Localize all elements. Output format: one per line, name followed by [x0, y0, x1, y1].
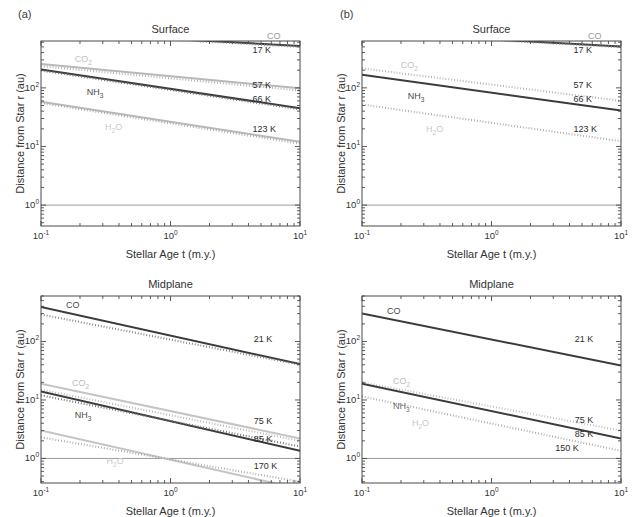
x-tick-label: 10-1: [28, 230, 54, 241]
chart-title-b-midplane: Midplane: [362, 278, 621, 290]
molecule-label-CO: CO: [588, 31, 602, 41]
temperature-label: 21 K: [575, 334, 594, 344]
y-tick-label: 100: [336, 199, 360, 210]
molecule-label-NH3: NH3: [87, 87, 104, 97]
y-tick-label: 102: [15, 335, 39, 346]
temperature-label: 17 K: [253, 45, 272, 55]
y-tick-label: 102: [336, 335, 360, 346]
x-axis-label-b-surface: Stellar Age t (m.y.): [362, 248, 621, 260]
chart-title-a-midplane: Midplane: [41, 278, 300, 290]
axes-frame: [41, 296, 300, 483]
temperature-label: 75 K: [254, 416, 273, 426]
molecule-label-CO2: CO2: [72, 378, 89, 388]
x-axis-label-a-surface: Stellar Age t (m.y.): [41, 248, 300, 260]
x-tick-label: 101: [287, 230, 313, 241]
temperature-label: 170 K: [254, 461, 278, 471]
x-tick-label: 10-1: [28, 487, 54, 498]
temperature-label: 21 K: [254, 334, 273, 344]
molecule-label-H2O: H2O: [105, 122, 122, 132]
molecule-label-NH3: NH3: [75, 410, 92, 420]
y-tick-label: 100: [15, 199, 39, 210]
temperature-label: 123 K: [574, 124, 598, 134]
x-tick-label: 100: [158, 487, 184, 498]
molecule-label-H2O: H2O: [426, 124, 443, 134]
x-tick-label: 100: [479, 230, 505, 241]
y-tick-label: 101: [336, 394, 360, 405]
series-line: [41, 437, 300, 481]
y-tick-label: 101: [15, 394, 39, 405]
molecule-label-H2O: H2O: [107, 456, 124, 466]
molecule-label-CO2: CO2: [393, 376, 410, 386]
y-tick-label: 100: [336, 452, 360, 463]
panel-tag-a: (a): [18, 8, 31, 20]
molecule-label-NH3: NH3: [393, 401, 410, 411]
y-tick-label: 100: [15, 452, 39, 463]
molecule-label-CO: CO: [387, 306, 401, 316]
molecule-label-H2O: H2O: [412, 418, 429, 428]
temperature-label: 57 K: [253, 80, 272, 90]
molecule-label-CO2: CO2: [75, 54, 92, 64]
x-tick-label: 100: [479, 487, 505, 498]
molecule-label-CO: CO: [66, 300, 80, 310]
x-tick-label: 101: [608, 487, 633, 498]
temperature-label: 66 K: [574, 94, 593, 104]
x-tick-label: 100: [158, 230, 184, 241]
x-tick-label: 101: [287, 487, 313, 498]
panel-tag-b: (b): [340, 8, 353, 20]
series-line: [41, 102, 300, 142]
molecule-label-CO2: CO2: [401, 60, 418, 70]
y-tick-label: 101: [336, 140, 360, 151]
temperature-label: 85 K: [254, 434, 273, 444]
x-tick-label: 10-1: [349, 230, 375, 241]
temperature-label: 17 K: [574, 45, 593, 55]
temperature-label: 150 K: [555, 443, 579, 453]
temperature-label: 75 K: [575, 415, 594, 425]
plot-curves: [362, 32, 621, 205]
x-tick-label: 101: [608, 230, 633, 241]
molecule-label-CO: CO: [267, 31, 281, 41]
chart-title-b-surface: Surface: [362, 23, 621, 35]
temperature-label: 66 K: [253, 94, 272, 104]
temperature-label: 123 K: [253, 124, 277, 134]
x-axis-label-a-midplane: Stellar Age t (m.y.): [41, 505, 300, 517]
temperature-label: 57 K: [574, 80, 593, 90]
y-tick-label: 101: [15, 140, 39, 151]
y-tick-label: 102: [15, 82, 39, 93]
axes-frame: [362, 296, 621, 483]
temperature-label: 85 K: [575, 429, 594, 439]
x-axis-label-b-midplane: Stellar Age t (m.y.): [362, 505, 621, 517]
chart-title-a-surface: Surface: [41, 23, 300, 35]
y-tick-label: 102: [336, 82, 360, 93]
series-line: [362, 105, 621, 142]
molecule-label-NH3: NH3: [408, 91, 425, 101]
x-tick-label: 10-1: [349, 487, 375, 498]
